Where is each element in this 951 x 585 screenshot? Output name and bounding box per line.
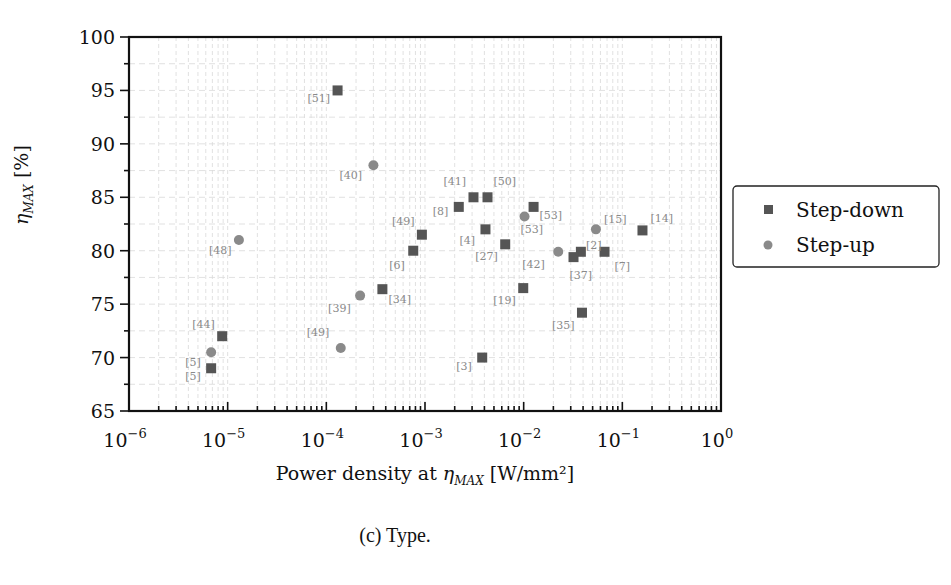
step-down-marker xyxy=(333,85,343,95)
point-label: [8] xyxy=(433,205,449,218)
point-label: [7] xyxy=(615,260,631,273)
point-label: [53] xyxy=(540,209,563,222)
step-up-marker xyxy=(336,343,346,353)
legend: Step-down Step-up xyxy=(733,186,939,267)
step-down-marker xyxy=(500,239,510,249)
point-label: [48] xyxy=(209,244,232,257)
step-up-marker xyxy=(368,160,378,170)
step-down-marker xyxy=(454,202,464,212)
step-down-marker xyxy=(569,252,579,262)
step-down-marker xyxy=(477,353,487,363)
point-label: [14] xyxy=(650,212,673,225)
step-down-marker xyxy=(637,225,647,235)
point-label: [40] xyxy=(339,169,362,182)
x-tick-label: 10−3 xyxy=(399,426,442,451)
step-down-marker xyxy=(483,192,493,202)
step-up-marker xyxy=(234,235,244,245)
point-label: [4] xyxy=(459,234,475,247)
step-down-marker xyxy=(518,283,528,293)
figure-caption: (c) Type. xyxy=(0,524,790,547)
point-label: [44] xyxy=(192,318,215,331)
step-down-marker xyxy=(408,246,418,256)
step-up-marker xyxy=(553,247,563,257)
step-up-marker xyxy=(591,224,601,234)
step-down-marker xyxy=(577,308,587,318)
legend-square-icon xyxy=(764,205,773,214)
point-label: [53] xyxy=(521,223,544,236)
x-tick-label: 10−4 xyxy=(301,426,344,451)
scatter-chart: [51][41][50][8][53][4][14][49][27][6][37… xyxy=(0,0,951,585)
y-tick-label: 95 xyxy=(91,79,115,101)
step-down-marker xyxy=(417,230,427,240)
step-up-marker xyxy=(520,212,530,222)
step-up-marker xyxy=(355,291,365,301)
point-label: [19] xyxy=(493,294,516,307)
step-down-marker xyxy=(217,331,227,341)
point-label: [42] xyxy=(522,258,545,271)
step-up-marker xyxy=(206,347,216,357)
point-label: [37] xyxy=(570,269,593,282)
y-tick-label: 90 xyxy=(91,133,115,155)
x-tick-label: 100 xyxy=(701,426,733,451)
point-label: [34] xyxy=(388,293,411,306)
point-label: [5] xyxy=(185,370,201,383)
y-tick-label: 85 xyxy=(91,186,115,208)
point-label: [5] xyxy=(185,356,201,369)
point-label: [35] xyxy=(552,319,575,332)
step-down-marker xyxy=(480,224,490,234)
data-points: [51][41][50][8][53][4][14][49][27][6][37… xyxy=(185,85,673,383)
y-tick-label: 75 xyxy=(91,293,115,315)
axis-ticks: 6570758085909510010−610−510−410−310−210−… xyxy=(79,26,734,451)
y-tick-label: 70 xyxy=(91,347,115,369)
step-down-marker xyxy=(377,284,387,294)
y-axis-title: ηMAX [%] xyxy=(10,145,36,225)
grid xyxy=(129,37,721,411)
point-label: [39] xyxy=(328,302,351,315)
point-label: [49] xyxy=(392,215,415,228)
point-label: [49] xyxy=(307,326,330,339)
point-label: [3] xyxy=(456,360,472,373)
x-tick-label: 10−6 xyxy=(103,426,146,451)
legend-label-step-up: Step-up xyxy=(796,233,875,257)
step-down-marker xyxy=(468,192,478,202)
point-label: [27] xyxy=(475,250,498,263)
legend-label-step-down: Step-down xyxy=(796,198,904,222)
point-label: [6] xyxy=(389,259,405,272)
legend-circle-icon xyxy=(764,241,773,250)
point-label: [41] xyxy=(443,175,466,188)
x-tick-label: 10−5 xyxy=(202,426,245,451)
point-label: [51] xyxy=(308,92,331,105)
x-axis-title: Power density at ηMAX [W/mm²] xyxy=(129,462,721,488)
step-down-marker xyxy=(206,363,216,373)
step-down-marker xyxy=(529,202,539,212)
x-tick-label: 10−2 xyxy=(498,426,541,451)
point-label: [2] xyxy=(586,239,602,252)
y-tick-label: 65 xyxy=(91,400,115,422)
y-tick-label: 80 xyxy=(91,240,115,262)
y-tick-label: 100 xyxy=(79,26,115,48)
point-label: [15] xyxy=(604,213,627,226)
point-label: [50] xyxy=(494,175,517,188)
x-tick-label: 10−1 xyxy=(597,426,640,451)
